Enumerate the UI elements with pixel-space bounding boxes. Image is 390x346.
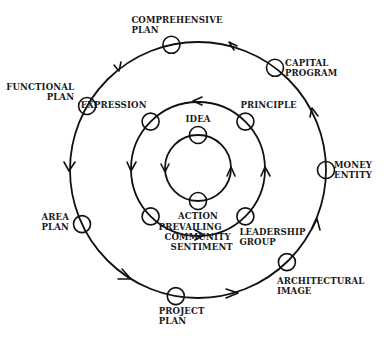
- idea-label: IDEA: [185, 114, 210, 124]
- principle-label: PRINCIPLE: [240, 100, 297, 110]
- architectural-image-node: [278, 254, 295, 271]
- idea-node: [190, 127, 207, 144]
- action-label: ACTION: [177, 211, 218, 221]
- prevailing-community-sentiment-node: [142, 208, 159, 225]
- comprehensive-plan-node: [163, 36, 180, 53]
- capital-program-node: [267, 59, 284, 76]
- area-plan-label: AREAPLAN: [41, 212, 70, 232]
- project-plan-node: [167, 288, 184, 305]
- principle-node: [237, 113, 254, 130]
- money-entity-label: MONEYENTITY: [334, 160, 373, 180]
- action-node: [190, 193, 207, 210]
- area-plan-node: [74, 216, 91, 233]
- leadership-group-node: [237, 208, 254, 225]
- expression-node: [142, 113, 159, 130]
- money-entity-node: [318, 162, 335, 179]
- concentric-cycle-diagram: IDEAACTIONPRINCIPLEEXPRESSIONPREVAILINGC…: [0, 0, 390, 346]
- functional-plan-node: [79, 98, 96, 115]
